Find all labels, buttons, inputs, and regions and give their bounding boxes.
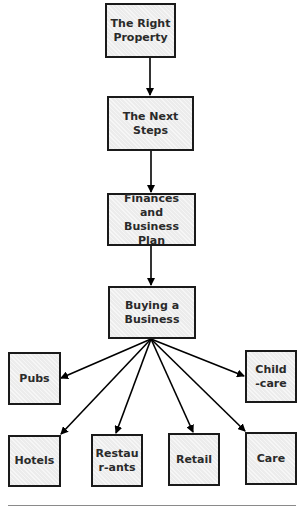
node-label: Retail	[176, 453, 212, 467]
node-label: Child-care	[254, 363, 288, 391]
node-buying-a-business: Buying a Business	[108, 286, 196, 339]
node-pubs: Pubs	[8, 352, 61, 405]
node-label: Care	[257, 452, 285, 466]
arrow-buying-to-care	[151, 339, 245, 431]
node-hotels: Hotels	[8, 435, 61, 487]
node-label: Restaur-ants	[95, 447, 139, 475]
node-finances-and-business-plan: Finances and Business Plan	[107, 193, 196, 246]
arrow-buying-to-hotels	[61, 339, 151, 434]
arrow-buying-to-pubs	[61, 339, 151, 378]
node-label: The Next Steps	[111, 110, 190, 138]
node-label: Hotels	[15, 454, 55, 468]
node-retail: Retail	[168, 433, 220, 486]
arrow-buying-to-restaurants	[116, 339, 151, 433]
node-label: Finances and Business Plan	[111, 192, 192, 248]
node-the-right-property: The Right Property	[105, 3, 176, 58]
node-label: Pubs	[19, 372, 49, 386]
bottom-divider	[8, 505, 296, 506]
node-label: Buying a Business	[112, 299, 192, 327]
node-the-next-steps: The Next Steps	[107, 96, 194, 151]
node-restaurants: Restaur-ants	[91, 434, 143, 487]
node-label: The Right Property	[109, 17, 172, 45]
node-child-care: Child-care	[245, 350, 297, 403]
flowchart-diagram: The Right Property The Next Steps Financ…	[0, 0, 304, 509]
node-care: Care	[245, 432, 297, 485]
